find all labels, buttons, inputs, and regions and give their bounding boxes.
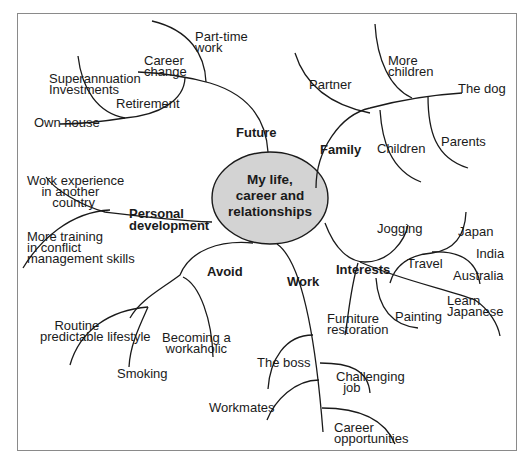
label-work-experience: Work experience in another country bbox=[27, 175, 124, 208]
label-india: India bbox=[476, 248, 504, 259]
branch-parents bbox=[428, 96, 468, 168]
label-jogging: Jogging bbox=[377, 223, 423, 234]
label-becoming-workaholic: Becoming a workaholic bbox=[162, 332, 231, 354]
label-part-time-work: Part-time work bbox=[195, 31, 248, 53]
label-children: Children bbox=[377, 143, 425, 154]
center-line-3: relationships bbox=[212, 204, 328, 220]
label-superannuation-investments: Superannuation Investments bbox=[49, 73, 141, 95]
branch-future bbox=[138, 72, 268, 152]
center-line-1: My life, bbox=[212, 172, 328, 188]
branch-label-family: Family bbox=[320, 144, 361, 156]
label-workmates: Workmates bbox=[209, 402, 275, 413]
label-own-house: Own house bbox=[34, 117, 100, 128]
label-partner: Partner bbox=[309, 79, 352, 90]
label-australia: Australia bbox=[453, 270, 504, 281]
branch-label-personal-development: Personal development bbox=[129, 208, 209, 232]
label-parents: Parents bbox=[441, 136, 486, 147]
label-learn-japanese: Learn Japanese bbox=[447, 295, 503, 317]
branch-avoid bbox=[130, 242, 253, 318]
label-the-boss: The boss bbox=[257, 357, 310, 368]
label-the-dog: The dog bbox=[458, 83, 506, 94]
label-travel: Travel bbox=[407, 258, 443, 269]
label-japan: Japan bbox=[458, 226, 493, 237]
label-more-children: More children bbox=[388, 55, 434, 77]
label-retirement: Retirement bbox=[116, 98, 180, 109]
label-more-training: More training in conflict management ski… bbox=[27, 231, 135, 264]
branch-work bbox=[277, 244, 323, 432]
branch-label-future: Future bbox=[236, 127, 276, 139]
label-smoking: Smoking bbox=[117, 368, 168, 379]
label-career-change: Career change bbox=[144, 55, 187, 77]
label-painting: Painting bbox=[395, 311, 442, 322]
branch-label-interests: Interests bbox=[336, 264, 390, 276]
center-line-2: career and bbox=[212, 188, 328, 204]
label-furniture-restoration: Furniture restoration bbox=[327, 313, 388, 335]
center-node-label: My life, career and relationships bbox=[212, 172, 328, 220]
branch-label-work: Work bbox=[287, 276, 319, 288]
label-challenging-job: Challenging job bbox=[336, 371, 405, 393]
branch-label-avoid: Avoid bbox=[207, 266, 243, 278]
label-career-opportunities: Career opportunities bbox=[334, 422, 408, 444]
label-routine-lifestyle: Routine predictable lifestyle bbox=[40, 320, 151, 342]
